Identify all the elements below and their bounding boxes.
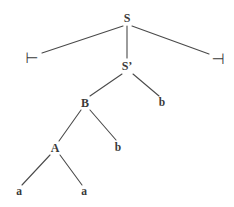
tree-edge-a-to-a2 [60, 155, 82, 185]
tree-node-b1: b [159, 97, 165, 109]
tree-node-b2: b [115, 142, 121, 154]
tree-edges-layer [0, 0, 234, 207]
tree-edge-a-to-a1 [22, 155, 50, 185]
tree-node-sprime: S’ [122, 60, 133, 72]
tree-edge-b-to-b2 [90, 110, 116, 140]
tree-node-a2: a [81, 186, 87, 198]
parse-tree-figure: S⊢S’⊣BbAbaa [0, 0, 234, 207]
tree-edge-sprime-to-b [90, 74, 122, 96]
tree-edge-s-to-leftend [42, 26, 123, 53]
tree-edge-sprime-to-b1 [133, 74, 159, 96]
tree-node-leftend: ⊢ [25, 51, 38, 66]
tree-edge-s-to-rightend [132, 26, 209, 54]
tree-edge-b-to-a [59, 110, 81, 141]
edge-group [22, 26, 209, 185]
tree-node-a1: a [16, 186, 22, 198]
tree-node-rightend: ⊣ [211, 52, 224, 67]
tree-node-b: B [81, 97, 89, 109]
tree-node-s: S [124, 12, 131, 24]
tree-node-a: A [51, 142, 60, 154]
